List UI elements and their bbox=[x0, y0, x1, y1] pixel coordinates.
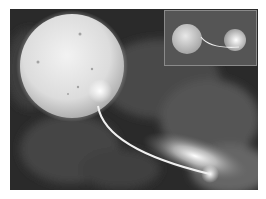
giant-star bbox=[20, 14, 124, 118]
inset-binary-diagram bbox=[164, 10, 257, 66]
inset-giant-star bbox=[172, 24, 202, 54]
illustration-frame bbox=[10, 9, 258, 190]
l1-point-glow bbox=[88, 79, 112, 103]
